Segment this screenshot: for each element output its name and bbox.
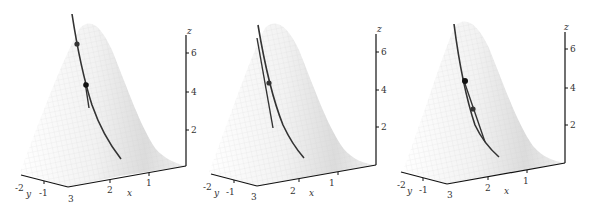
- plot-panel-1: z 6 4 2 3 2 1 x -2 -1 y: [0, 0, 197, 213]
- z-tick-6: 6: [381, 47, 387, 57]
- x-tick-1: 1: [329, 178, 335, 188]
- surface-plot-2: z 6 4 2 3 2 1 x -2 -1 y: [193, 0, 390, 213]
- marker-point: [470, 106, 475, 111]
- x-tick-3: 3: [251, 192, 257, 202]
- y-axis-label: y: [25, 189, 32, 199]
- z-tick-2: 2: [381, 122, 387, 132]
- x-tick-3: 3: [447, 190, 453, 200]
- z-tick-4: 4: [381, 85, 387, 95]
- x-tick-3: 3: [68, 194, 74, 204]
- z-axis-label: z: [186, 26, 192, 36]
- x-axis-label: x: [504, 186, 509, 196]
- x-axis-label: x: [309, 188, 314, 198]
- marker-point: [266, 80, 271, 85]
- x-tick-2: 2: [290, 186, 296, 196]
- y-axis-label: y: [406, 186, 413, 196]
- x-tick-1: 1: [146, 178, 152, 188]
- z-tick-2: 2: [570, 120, 576, 130]
- z-tick-6: 6: [570, 44, 576, 54]
- x-tick-2: 2: [107, 185, 113, 195]
- surface-plot-3: z 6 4 2 3 2 1 x -2 -1 y: [391, 0, 591, 213]
- y-tick-neg2: -2: [397, 180, 406, 190]
- plot-panel-3: z 6 4 2 3 2 1 x -2 -1 y: [391, 0, 588, 213]
- marker-point: [462, 78, 468, 84]
- surface: [403, 21, 565, 184]
- y-axis-label: y: [213, 188, 220, 198]
- y-tick-neg1: -1: [39, 188, 48, 198]
- plot-panel-2: z 6 4 2 3 2 1 x -2 -1 y: [193, 0, 390, 213]
- x-tick-1: 1: [523, 176, 529, 186]
- z-tick-4: 4: [570, 83, 576, 93]
- y-tick-neg2: -2: [203, 182, 212, 192]
- surface-plot-1: z 6 4 2 3 2 1 x -2 -1 y: [0, 0, 197, 213]
- marker-point: [74, 41, 79, 46]
- y-tick-neg1: -1: [419, 185, 428, 195]
- marker-point: [83, 82, 89, 88]
- surface: [209, 23, 376, 186]
- z-axis-label: z: [376, 24, 382, 34]
- y-tick-neg2: -2: [15, 183, 24, 193]
- surface: [20, 23, 186, 187]
- x-tick-2: 2: [485, 183, 491, 193]
- y-tick-neg1: -1: [226, 187, 235, 197]
- x-axis-label: x: [127, 188, 132, 198]
- z-axis-label: z: [563, 22, 569, 32]
